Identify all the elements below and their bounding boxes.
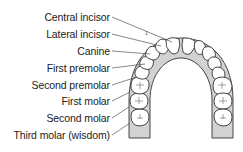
label-second-molar: Second molar <box>46 112 110 124</box>
label-third-molar: Third molar (wisdom) <box>13 129 110 141</box>
label-central-incisor: Central incisor <box>44 11 110 23</box>
label-lateral-incisor: Lateral incisor <box>46 28 110 40</box>
label-second-premolar: Second premolar <box>32 79 110 91</box>
label-canine: Canine <box>77 45 110 57</box>
label-first-premolar: First premolar <box>47 62 110 74</box>
dental-arch-diagram: 1 Central incisor Lateral incisor Canine… <box>0 0 243 152</box>
label-first-molar: First molar <box>62 95 110 107</box>
label-column: Central incisor Lateral incisor Canine F… <box>0 0 243 152</box>
